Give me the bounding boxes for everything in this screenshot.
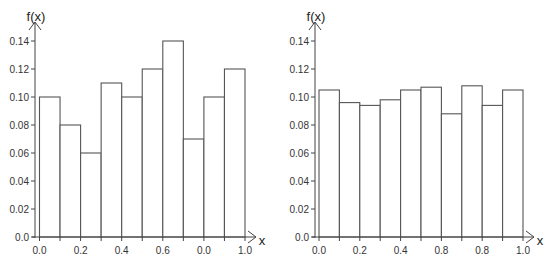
x-tick-label: 0.0	[197, 245, 211, 256]
histogram-bar	[441, 114, 461, 237]
histogram-bar	[142, 69, 163, 237]
histogram-bar	[421, 87, 441, 237]
x-tick-label: 0.4	[115, 245, 129, 256]
y-tick-label: 0.02	[10, 204, 30, 215]
x-tick-label: 0.0	[312, 245, 326, 256]
histogram-bar	[40, 97, 61, 237]
x-tick-label: 0.2	[353, 245, 367, 256]
histogram-bar	[319, 90, 339, 237]
histogram-bar	[101, 83, 122, 237]
y-tick-label: 0.08	[10, 120, 30, 131]
x-tick-label: 0.0	[33, 245, 47, 256]
y-tick-label: 0.10	[290, 92, 310, 103]
histogram-bar	[163, 41, 184, 237]
y-tick-label: 0.12	[290, 64, 310, 75]
y-tick-label: 0.14	[290, 36, 310, 47]
histogram-figure: 0.00.020.040.060.080.100.120.140.00.20.4…	[0, 0, 548, 264]
x-tick-label: 0.4	[394, 245, 408, 256]
y-tick-label: 0.08	[290, 120, 310, 131]
histogram-bar	[122, 97, 143, 237]
x-tick-label: 1.0	[238, 245, 252, 256]
y-tick-label: 0.10	[10, 92, 30, 103]
histogram-bar	[183, 139, 204, 237]
x-tick-label: 0.8	[475, 245, 489, 256]
x-tick-label: 0.8	[434, 245, 448, 256]
y-tick-label: 0.06	[290, 148, 310, 159]
histogram-bar	[339, 103, 359, 237]
x-tick-label: 0.6	[156, 245, 170, 256]
histogram-bar	[380, 100, 400, 237]
y-tick-label: 0.0	[295, 232, 309, 243]
histogram-bar	[401, 90, 421, 237]
y-tick-label: 0.04	[290, 176, 310, 187]
histogram-bar	[482, 105, 502, 237]
y-axis-label: f(x)	[307, 9, 326, 24]
histogram-left: 0.00.020.040.060.080.100.120.140.00.20.4…	[10, 9, 266, 256]
y-tick-label: 0.04	[10, 176, 30, 187]
y-axis-label: f(x)	[27, 9, 46, 24]
histogram-bar	[360, 105, 380, 237]
y-tick-label: 0.0	[15, 232, 29, 243]
y-tick-label: 0.12	[10, 64, 30, 75]
histogram-bar	[224, 69, 245, 237]
histogram-bar	[81, 153, 102, 237]
histogram-bar	[462, 86, 482, 237]
x-tick-label: 0.2	[74, 245, 88, 256]
y-tick-label: 0.06	[10, 148, 30, 159]
histogram-bar	[503, 90, 523, 237]
histogram-bar	[204, 97, 225, 237]
x-axis-label: x	[537, 233, 544, 248]
histogram-right: 0.00.020.040.060.080.100.120.140.00.20.4…	[290, 9, 544, 256]
histogram-bar	[60, 125, 81, 237]
x-tick-label: 1.0	[516, 245, 530, 256]
y-tick-label: 0.02	[290, 204, 310, 215]
y-tick-label: 0.14	[10, 36, 30, 47]
x-axis-label: x	[259, 233, 266, 248]
